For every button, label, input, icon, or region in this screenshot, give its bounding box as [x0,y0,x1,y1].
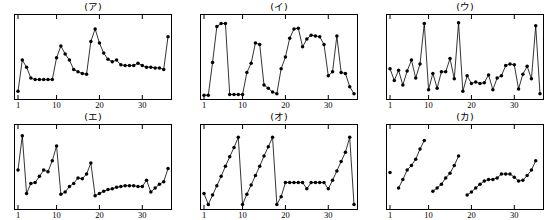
x-tick-label: 30 [138,210,147,220]
data-point-marker [115,186,119,190]
data-point-marker [284,55,288,59]
data-point-marker [228,155,232,159]
plot-area [14,14,172,100]
data-point-marker [98,192,102,196]
data-point-marker [38,175,42,179]
data-point-marker [29,76,33,80]
data-point-marker [525,174,529,178]
x-tick-label: 20 [281,210,290,220]
data-point-marker [68,58,72,62]
data-point-marker [388,171,392,175]
data-point-marker [292,181,296,185]
data-point-marker [322,181,326,185]
data-point-marker [517,87,521,91]
x-tick-label: 10 [424,210,433,220]
plot-area [386,14,544,100]
series-line [204,137,354,204]
data-point-marker [292,27,296,31]
data-point-marker [219,22,223,26]
data-point-marker [267,86,271,90]
data-point-marker [314,34,318,38]
data-point-marker [500,172,504,176]
plot-area [14,124,172,210]
data-point-marker [63,190,66,194]
data-point-marker [72,182,76,186]
data-point-marker [418,62,422,66]
data-point-marker [166,167,170,171]
data-point-marker [478,82,482,86]
data-point-marker [491,178,495,182]
plot-frame [15,15,172,100]
data-point-marker [483,81,487,85]
x-tick-label: 10 [238,210,247,220]
data-point-marker [21,134,25,138]
data-point-marker [279,67,283,71]
data-point-marker [111,60,115,64]
data-point-marker [534,159,538,163]
data-point-marker [521,72,525,76]
data-point-marker [309,181,313,185]
data-point-marker [98,41,102,45]
data-point-marker [145,65,149,69]
data-point-marker [314,181,318,185]
data-point-marker [106,188,110,192]
x-tick-label: 20 [281,100,290,110]
data-point-marker [339,160,343,164]
data-point-marker [297,181,301,185]
x-axis-labels: 1102030 [186,210,372,220]
data-point-marker [207,203,211,207]
data-point-marker [72,68,76,72]
data-point-marker [81,72,85,76]
data-point-marker [348,85,352,89]
x-tick-label: 30 [510,100,519,110]
data-point-marker [410,164,414,168]
data-point-marker [63,52,66,56]
x-tick-label: 30 [324,100,333,110]
data-point-marker [465,74,469,78]
data-point-marker [202,192,206,196]
x-tick-label: 10 [52,210,61,220]
series-line [18,136,168,196]
data-point-marker [241,93,245,97]
data-point-marker [521,179,525,183]
data-point-marker [59,193,63,197]
data-point-marker [483,179,487,183]
data-point-marker [414,76,418,80]
data-point-marker [453,77,457,81]
data-point-marker [301,181,305,185]
data-point-marker [405,168,409,172]
data-point-marker [254,41,257,45]
panel-title: (エ) [0,110,186,123]
data-point-marker [55,144,59,148]
data-point-marker [318,181,322,185]
panel-title: (ア) [0,0,186,13]
chart-panel: (イ)1102030 [186,0,372,110]
data-point-marker [132,64,136,68]
data-point-marker [51,78,55,82]
x-tick-label: 10 [238,100,247,110]
data-point-marker [25,192,29,196]
series-line [204,23,354,95]
data-point-marker [76,176,80,180]
data-point-marker [46,78,50,82]
x-tick-label: 1 [16,210,20,220]
data-point-marker [119,63,123,67]
data-point-marker [309,33,313,37]
data-point-marker [258,43,262,47]
data-point-marker [397,69,401,73]
data-point-marker [262,154,266,158]
data-point-marker [85,72,89,76]
data-point-marker [448,57,452,61]
data-point-marker [423,22,427,26]
data-point-marker [141,64,145,68]
data-point-marker [427,88,431,92]
data-point-marker [123,64,127,68]
x-tick-label: 1 [202,100,206,110]
data-point-marker [513,63,517,67]
data-point-marker [249,183,253,187]
data-point-marker [401,178,405,182]
data-point-marker [207,93,211,97]
data-point-marker [33,181,37,185]
data-point-marker [440,70,444,74]
data-point-marker [327,187,331,191]
